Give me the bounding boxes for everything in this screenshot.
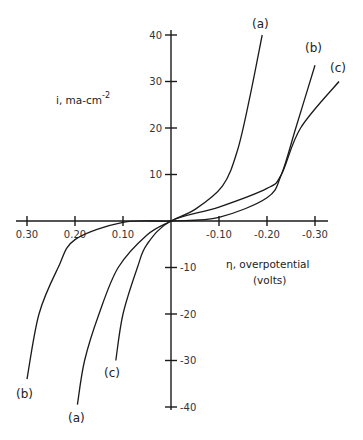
x-tick-label: 0.30 bbox=[16, 229, 38, 240]
y-tick-label: -30 bbox=[180, 355, 196, 366]
curve-a-top-label: (a) bbox=[252, 17, 269, 31]
y-tick-label: 20 bbox=[149, 123, 162, 134]
y-tick-label: 30 bbox=[149, 76, 162, 87]
curve-b-top-label: (b) bbox=[305, 41, 322, 55]
y-tick-label: -10 bbox=[180, 262, 196, 273]
curve-a-bottom-label: (a) bbox=[68, 411, 85, 425]
curve-c-bottom-label: (c) bbox=[104, 366, 120, 380]
y-tick-label: -20 bbox=[180, 309, 196, 320]
x-ticks: 0.300.200.10-0.10-0.20-0.30 bbox=[16, 216, 328, 240]
x-tick-label: -0.30 bbox=[302, 229, 328, 240]
y-tick-label: 10 bbox=[149, 169, 162, 180]
x-tick-label: 0.10 bbox=[112, 229, 134, 240]
y-tick-label: 40 bbox=[149, 30, 162, 41]
x-tick-label: -0.20 bbox=[254, 229, 280, 240]
x-axis-label-line1: η, overpotential bbox=[226, 258, 309, 270]
y-tick-label: -40 bbox=[180, 402, 196, 413]
y-axis-label: i, ma-cm-2 bbox=[56, 91, 110, 106]
curve-b-bottom-label: (b) bbox=[16, 387, 33, 401]
x-tick-label: -0.10 bbox=[206, 229, 232, 240]
x-axis-label-line2: (volts) bbox=[253, 274, 286, 286]
polarization-chart: 0.300.200.10-0.10-0.20-0.30 40302010-10-… bbox=[0, 0, 363, 440]
curve-c-top-label: (c) bbox=[330, 61, 346, 75]
curves bbox=[27, 35, 339, 405]
